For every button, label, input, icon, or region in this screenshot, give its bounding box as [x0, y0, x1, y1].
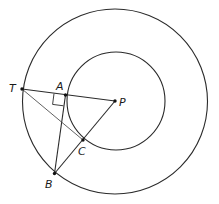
- point-c: [81, 138, 84, 141]
- geometry-diagram: T A P C B: [0, 0, 219, 204]
- point-p: [113, 99, 116, 102]
- label-b: B: [45, 178, 53, 191]
- label-p: P: [119, 96, 126, 109]
- point-b: [53, 172, 56, 175]
- point-a: [64, 93, 67, 96]
- label-t: T: [9, 82, 17, 95]
- label-c: C: [78, 145, 86, 158]
- point-t: [20, 87, 23, 90]
- right-angle-marker: [53, 94, 64, 106]
- label-a: A: [55, 80, 64, 93]
- segment-tc: [22, 89, 83, 140]
